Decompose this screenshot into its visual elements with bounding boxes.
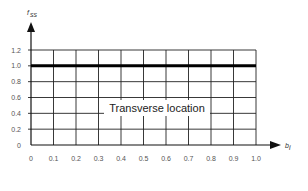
x-tick-label: 0.8 [206, 155, 216, 162]
y-axis-arrow-icon [27, 22, 35, 32]
x-tick-label: 0.7 [184, 155, 194, 162]
x-tick-label: 0 [29, 155, 33, 162]
chart: 00.10.20.30.40.50.60.70.80.91.000.20.40.… [0, 0, 308, 191]
y-tick-label: 0.2 [11, 126, 21, 133]
y-tick-label: 0.8 [11, 78, 21, 85]
x-tick-label: 0.4 [116, 155, 126, 162]
x-axis-arrow-icon [270, 141, 281, 149]
x-tick-label: 0.9 [229, 155, 239, 162]
x-tick-label: 1.0 [251, 155, 261, 162]
y-tick-label: 0.6 [11, 94, 21, 101]
y-tick-label: 0.4 [11, 110, 21, 117]
y-tick-label: 1.2 [11, 47, 21, 54]
annotation-transverse-location: Transverse location [104, 100, 210, 116]
x-tick-label: 0.5 [139, 155, 149, 162]
y-axis-label-subscript: ss [30, 11, 38, 18]
x-tick-label: 0.1 [49, 155, 59, 162]
x-axis-label-subscript: i [289, 144, 291, 151]
y-tick-label: 1.0 [11, 62, 21, 69]
x-tick-label: 0.2 [71, 155, 81, 162]
x-tick-label: 0.6 [161, 155, 171, 162]
y-tick-label: 0 [17, 142, 21, 149]
x-tick-label: 0.3 [94, 155, 104, 162]
